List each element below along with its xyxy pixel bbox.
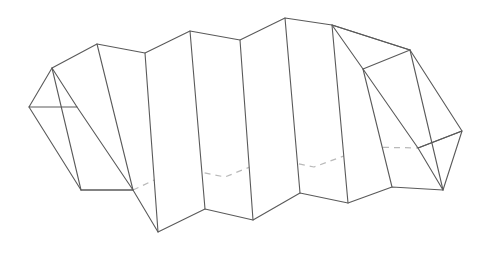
geometry-svg [0, 0, 488, 255]
figure-canvas [0, 0, 488, 255]
